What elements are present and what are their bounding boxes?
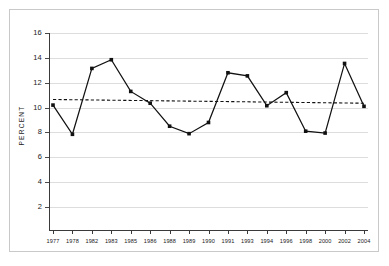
line-chart: PERCENT 246810121416 1977197819821983198… — [10, 10, 380, 253]
data-point-marker — [207, 121, 211, 125]
data-point-markers — [51, 58, 366, 136]
data-point-marker — [110, 58, 114, 62]
data-point-marker — [304, 129, 308, 133]
chart-figure-frame: PERCENT 246810121416 1977197819821983198… — [9, 9, 379, 252]
data-point-marker — [90, 67, 94, 71]
series-layer — [10, 10, 380, 253]
data-point-marker — [71, 132, 75, 136]
data-point-marker — [148, 101, 152, 105]
data-point-marker — [246, 74, 250, 78]
data-point-marker — [187, 132, 191, 136]
data-point-marker — [343, 62, 347, 66]
data-point-marker — [168, 124, 172, 128]
data-point-marker — [226, 71, 230, 75]
data-point-marker — [51, 103, 55, 107]
data-point-marker — [265, 104, 269, 108]
data-point-marker — [284, 91, 288, 95]
trend-dashed-line — [53, 99, 364, 103]
data-point-marker — [362, 105, 366, 109]
data-point-marker — [129, 90, 133, 94]
data-point-marker — [323, 131, 327, 135]
